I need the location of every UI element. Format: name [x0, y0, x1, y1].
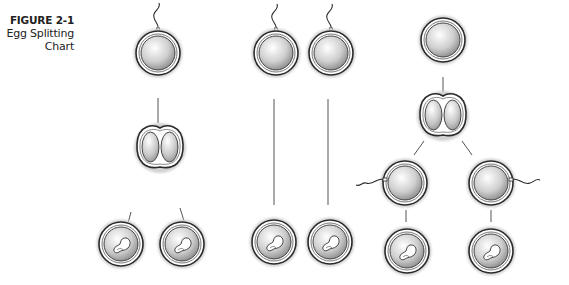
sperm-tail — [272, 4, 278, 30]
embryo-egg — [97, 220, 146, 269]
embryo-egg — [467, 227, 516, 276]
connector-line — [462, 141, 472, 155]
fertilized-half — [381, 159, 430, 208]
sperm-tail — [327, 4, 333, 30]
embryo-egg — [250, 218, 299, 267]
sperm-tail — [512, 179, 540, 184]
sperm-head — [383, 178, 387, 181]
sperm-tail — [154, 3, 160, 30]
sperm-tail — [356, 179, 384, 185]
embryo-egg — [306, 218, 355, 267]
column-split-then-fertilized — [356, 16, 540, 276]
embryo-egg — [383, 227, 432, 276]
egg-splitting-diagram — [0, 0, 569, 285]
column-identical-twins — [97, 3, 207, 269]
fertilized-half — [467, 159, 516, 208]
unfertilized-egg — [419, 16, 468, 65]
sperm-head — [509, 178, 513, 181]
fertilized-egg — [252, 29, 301, 78]
embryo-egg — [158, 220, 207, 269]
connector-line — [414, 141, 424, 155]
fertilized-egg — [134, 29, 183, 78]
split-egg — [134, 123, 186, 173]
split-egg — [417, 91, 469, 141]
fertilized-egg — [307, 29, 356, 78]
column-fraternal-twins — [250, 4, 356, 267]
